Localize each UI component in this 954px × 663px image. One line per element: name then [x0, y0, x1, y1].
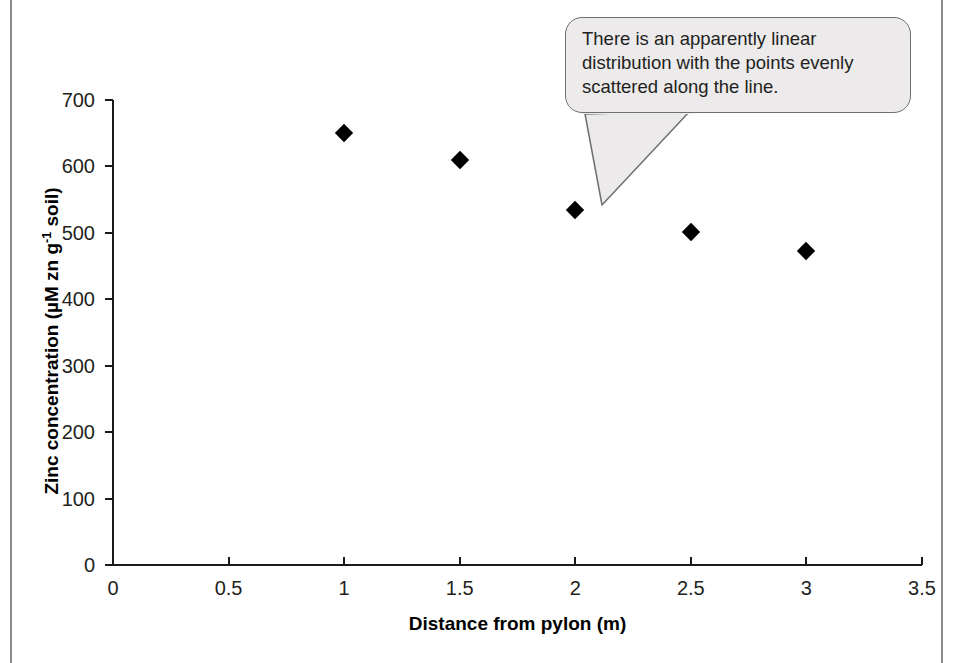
y-tick-mark: [105, 431, 113, 433]
x-tick-mark: [690, 557, 692, 565]
y-axis-line: [112, 100, 114, 566]
data-point-marker: [451, 151, 469, 169]
y-axis-title: Zinc concentration (µM zn g-1 soil): [41, 131, 63, 551]
x-tick-label: 1.5: [430, 578, 490, 598]
y-axis-title-main: Zinc concentration (µM zn g: [41, 243, 62, 495]
scatter-plot: 0100200300400500600700 00.511.522.533.5 …: [0, 0, 954, 663]
annotation-callout: There is an apparently linear distributi…: [565, 17, 911, 113]
x-tick-label: 1: [314, 578, 374, 598]
x-tick-label: 0.5: [199, 578, 259, 598]
x-tick-mark: [343, 557, 345, 565]
annotation-pointer-icon: [545, 105, 705, 215]
y-tick-mark: [105, 498, 113, 500]
x-tick-label: 3: [776, 578, 836, 598]
y-tick-mark: [105, 232, 113, 234]
y-tick-label: 700: [35, 90, 95, 110]
annotation-line-2: distribution with the points evenly: [582, 51, 897, 75]
x-tick-mark: [112, 557, 114, 565]
y-tick-mark: [105, 298, 113, 300]
y-tick-mark: [105, 99, 113, 101]
annotation-line-1: There is an apparently linear: [582, 27, 897, 51]
data-point-marker: [797, 242, 815, 260]
y-tick-label: 0: [35, 555, 95, 575]
x-tick-mark: [228, 557, 230, 565]
y-axis-title-superscript: -1: [40, 232, 54, 243]
x-tick-mark: [574, 557, 576, 565]
x-tick-label: 3.5: [892, 578, 952, 598]
data-point-marker: [335, 124, 353, 142]
x-tick-label: 2: [545, 578, 605, 598]
annotation-line-3: scattered along the line.: [582, 75, 897, 99]
x-axis-line: [113, 564, 922, 566]
x-axis-title: Distance from pylon (m): [113, 613, 922, 635]
x-tick-label: 2.5: [661, 578, 721, 598]
figure-page: 0100200300400500600700 00.511.522.533.5 …: [0, 0, 954, 663]
x-tick-mark: [459, 557, 461, 565]
y-tick-mark: [105, 165, 113, 167]
y-axis-title-tail: soil): [41, 187, 62, 231]
x-tick-mark: [921, 557, 923, 565]
y-tick-mark: [105, 365, 113, 367]
data-point-marker: [682, 222, 700, 240]
x-tick-label: 0: [83, 578, 143, 598]
x-tick-mark: [805, 557, 807, 565]
data-point-marker: [566, 200, 584, 218]
